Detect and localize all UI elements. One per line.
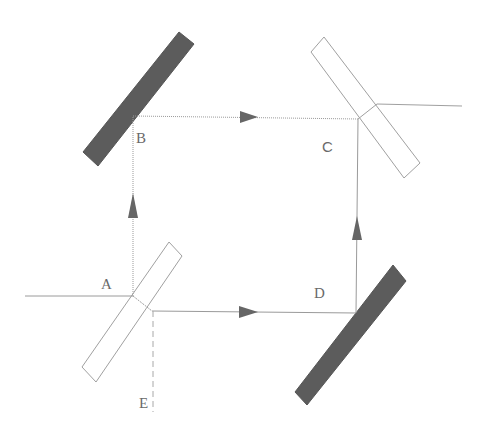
label-d: D [314,286,325,301]
label-c: C [322,139,333,154]
beam-splitter-a [82,242,182,382]
beam-c-output [377,104,462,106]
interferometer-diagram [0,0,485,440]
arrow-right-a-d-icon [239,306,258,318]
beam-splitter-c [311,37,420,178]
arrow-up-d-c-icon [352,216,362,240]
arrow-up-a-b-icon [128,193,138,218]
mirror-d [295,265,406,405]
arrow-right-b-c-icon [240,111,258,123]
label-e: E [139,396,148,411]
label-b: B [136,131,146,146]
label-a: A [101,277,112,292]
